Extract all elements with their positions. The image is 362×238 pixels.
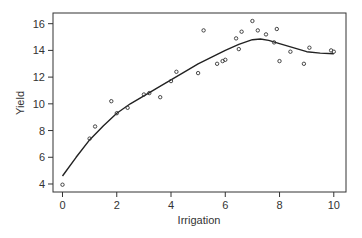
data-point <box>237 47 240 50</box>
data-points <box>61 19 336 186</box>
y-axis: 46810121416 <box>33 18 53 190</box>
x-axis: 0246810 <box>59 192 339 211</box>
y-axis-title: Yield <box>14 91 26 115</box>
data-point <box>289 50 292 53</box>
y-tick-label: 14 <box>33 44 45 56</box>
y-tick-label: 6 <box>39 151 45 163</box>
data-point <box>275 27 278 30</box>
x-axis-title: Irrigation <box>178 214 221 226</box>
plot-frame <box>53 13 346 192</box>
data-point <box>126 106 129 109</box>
y-tick-label: 10 <box>33 98 45 110</box>
fit-curve <box>63 39 334 176</box>
data-point <box>61 183 64 186</box>
data-point <box>240 30 243 33</box>
data-point <box>256 29 259 32</box>
data-point <box>302 62 305 65</box>
scatter-plot: 0246810 46810121416 Irrigation Yield <box>0 0 362 238</box>
data-point <box>308 46 311 49</box>
y-tick-label: 8 <box>39 125 45 137</box>
fit-line <box>63 39 334 176</box>
y-tick-label: 4 <box>39 178 45 190</box>
y-tick-label: 12 <box>33 71 45 83</box>
data-point <box>202 29 205 32</box>
x-tick-label: 0 <box>59 199 65 211</box>
y-tick-label: 16 <box>33 18 45 30</box>
data-point <box>175 70 178 73</box>
data-point <box>196 71 199 74</box>
data-point <box>251 19 254 22</box>
data-point <box>264 33 267 36</box>
data-point <box>110 100 113 103</box>
data-point <box>93 125 96 128</box>
x-tick-label: 8 <box>276 199 282 211</box>
data-point <box>234 37 237 40</box>
x-tick-label: 10 <box>328 199 340 211</box>
x-tick-label: 6 <box>222 199 228 211</box>
data-point <box>278 59 281 62</box>
x-tick-label: 4 <box>168 199 174 211</box>
data-point <box>215 62 218 65</box>
x-tick-label: 2 <box>114 199 120 211</box>
data-point <box>159 96 162 99</box>
